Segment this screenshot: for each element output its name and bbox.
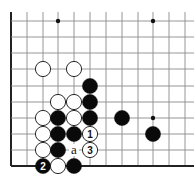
black-stone: [50, 142, 65, 157]
black-stone-icon: [66, 126, 81, 141]
black-stone: [82, 78, 97, 93]
white-stone: [35, 142, 50, 157]
white-stone: [50, 158, 65, 173]
black-stone-icon: [50, 110, 65, 125]
black-stone-icon: [82, 110, 97, 125]
board-grid: [11, 12, 194, 166]
white-stone: [66, 94, 81, 109]
white-stone-icon: [50, 158, 65, 173]
white-stone-icon: [66, 94, 81, 109]
white-stone-icon: [35, 61, 50, 76]
black-stone: [82, 110, 97, 125]
white-stone-icon: [66, 61, 81, 76]
black-stone-icon: [50, 142, 65, 157]
stones-layer: 132: [35, 61, 160, 173]
stone-move-number: 2: [40, 161, 46, 172]
black-stone: [66, 126, 81, 141]
black-stone-icon: [145, 126, 160, 141]
stone-move-number: 3: [87, 145, 93, 156]
black-stone: [114, 110, 129, 125]
black-stone: [50, 126, 65, 141]
white-stone-icon: [66, 110, 81, 125]
white-stone-icon: [35, 110, 50, 125]
black-stone-icon: [66, 158, 81, 173]
white-stone-1: 1: [82, 126, 97, 141]
black-stone-2: 2: [35, 158, 50, 173]
black-stone-icon: [114, 110, 129, 125]
white-stone-icon: [35, 126, 50, 141]
white-stone: [35, 126, 50, 141]
star-point-icon: [151, 19, 155, 23]
white-stone: [35, 61, 50, 76]
black-stone: [145, 126, 160, 141]
white-stone: [35, 110, 50, 125]
go-board-diagram: 132 a: [0, 0, 196, 183]
white-stone-3: 3: [82, 142, 97, 157]
white-stone: [50, 94, 65, 109]
marks-layer: a: [69, 142, 79, 157]
white-stone: [66, 110, 81, 125]
white-stone-icon: [35, 142, 50, 157]
black-stone: [82, 94, 97, 109]
black-stone-icon: [82, 78, 97, 93]
black-stone: [66, 158, 81, 173]
black-stone: [50, 110, 65, 125]
point-mark-a: a: [71, 142, 77, 157]
black-stone-icon: [50, 126, 65, 141]
star-point-icon: [151, 116, 155, 120]
stone-move-number: 1: [87, 129, 93, 140]
white-stone-icon: [50, 94, 65, 109]
white-stone: [66, 61, 81, 76]
star-point-icon: [56, 19, 60, 23]
black-stone-icon: [82, 94, 97, 109]
